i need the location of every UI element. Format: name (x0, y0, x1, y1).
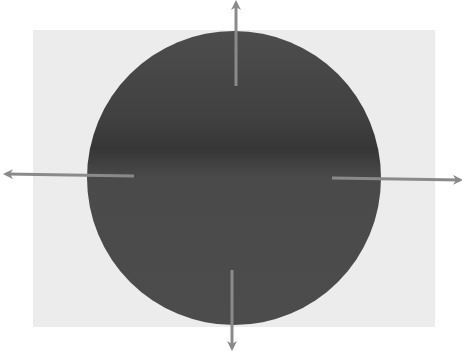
arrow-right-icon (332, 178, 460, 180)
arrow-left-icon (6, 174, 134, 176)
expansion-diagram (0, 0, 462, 351)
